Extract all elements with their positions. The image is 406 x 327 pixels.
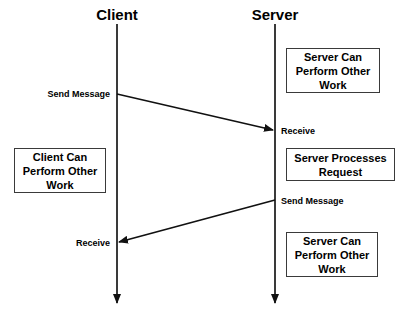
note-server-can-perform-other-work-bottom: Server Can Perform Other Work <box>286 232 378 277</box>
message-label-send-message-response: Send Message <box>281 196 344 206</box>
message-arrow-response <box>119 200 275 242</box>
note-client-can-perform-other-work: Client Can Perform Other Work <box>14 148 106 193</box>
note-server-can-perform-other-work-top: Server Can Perform Other Work <box>286 48 380 93</box>
message-label-receive-client: Receive <box>76 238 110 248</box>
sequence-diagram: Client Server Server Can Perform Other W… <box>0 0 406 327</box>
message-arrow-request <box>117 94 273 130</box>
message-label-send-message-request: Send Message <box>47 89 110 99</box>
message-label-receive-server: Receive <box>281 126 315 136</box>
note-server-processes-request: Server Processes Request <box>286 148 395 181</box>
